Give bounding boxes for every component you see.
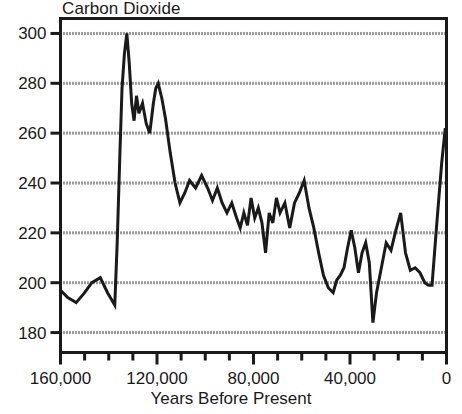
svg-text:200: 200 — [18, 274, 46, 293]
svg-text:280: 280 — [18, 74, 46, 93]
svg-text:80,000: 80,000 — [228, 369, 280, 388]
svg-text:300: 300 — [18, 24, 46, 43]
co2-data-line — [61, 33, 447, 322]
svg-text:120,000: 120,000 — [126, 369, 187, 388]
svg-text:220: 220 — [18, 224, 46, 243]
svg-text:180: 180 — [18, 324, 46, 343]
y-axis-tick-labels: 300280260240220200180 — [18, 24, 46, 342]
chart-plot-area: 300280260240220200180 160,000120,00080,0… — [0, 0, 462, 414]
co2-chart-figure: Carbon Dioxide 300280260240220200180 160… — [0, 0, 462, 414]
svg-text:0: 0 — [442, 369, 451, 388]
svg-text:240: 240 — [18, 174, 46, 193]
svg-text:160,000: 160,000 — [30, 369, 91, 388]
x-axis-ticks — [61, 353, 447, 365]
x-axis-label: Years Before Present — [0, 389, 462, 409]
svg-text:40,000: 40,000 — [324, 369, 376, 388]
x-axis-tick-labels: 160,000120,00080,00040,0000 — [30, 369, 451, 388]
svg-text:260: 260 — [18, 124, 46, 143]
